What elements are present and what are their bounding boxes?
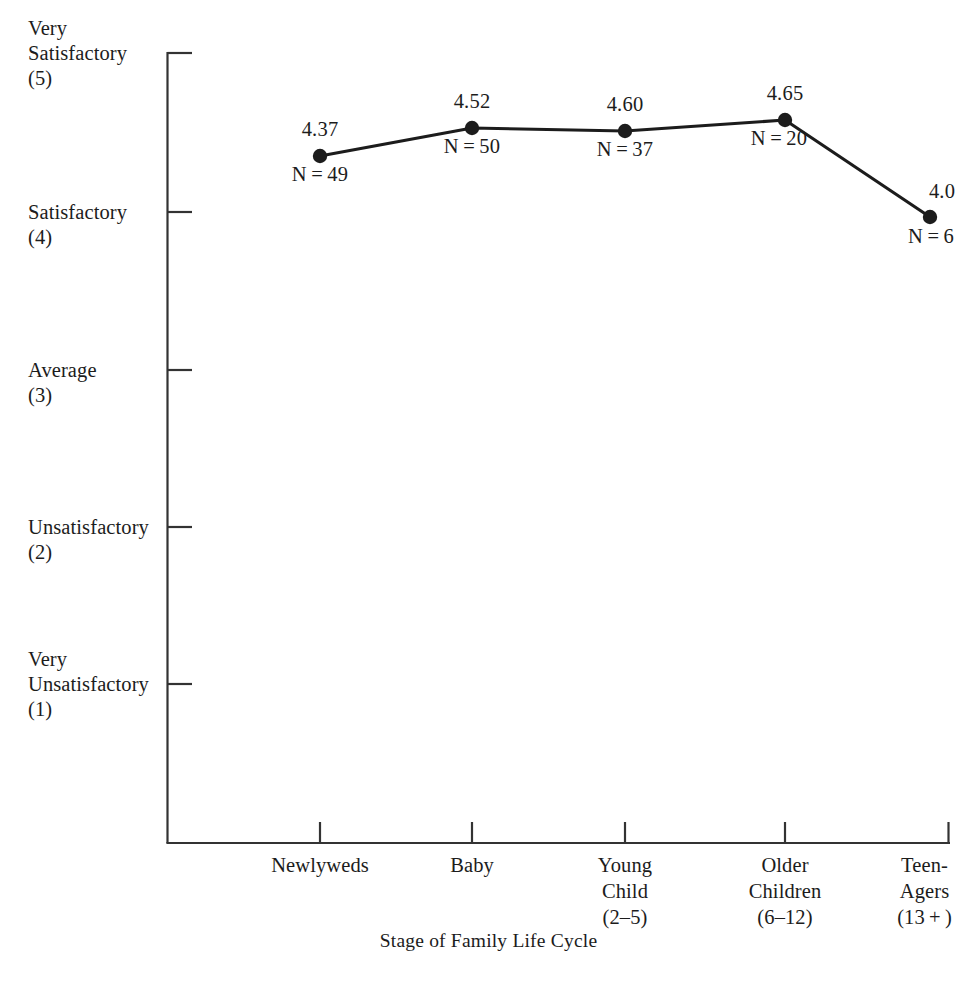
point-value-older-children: 4.65 [733, 82, 837, 104]
y-tick-label-1: Very Unsatisfactory (1) [28, 647, 178, 722]
data-point-older-children [778, 113, 792, 127]
x-tick-label-young-child: Young Child (2–5) [545, 852, 705, 930]
x-tick-label-newlyweds: Newlyweds [230, 852, 410, 878]
point-value-baby: 4.52 [420, 90, 524, 112]
point-n-baby: N = 50 [414, 135, 530, 157]
y-tick-marks [168, 53, 193, 684]
point-n-teen-agers: N = 6 [877, 225, 977, 247]
point-n-young-child: N = 37 [567, 138, 683, 160]
data-point-teen-agers [923, 210, 937, 224]
x-tick-label-older-children: Older Children (6–12) [705, 852, 865, 930]
point-n-older-children: N = 20 [721, 127, 837, 149]
point-value-young-child: 4.60 [573, 93, 677, 115]
data-point-young-child [618, 124, 632, 138]
x-tick-marks [320, 822, 949, 843]
y-tick-label-5: Very Satisfactory (5) [28, 16, 158, 91]
x-axis-title: Stage of Family Life Cycle [0, 930, 977, 952]
page-footer-fragment [0, 984, 977, 995]
y-tick-label-2: Unsatisfactory (2) [28, 515, 178, 565]
x-tick-label-teen-agers: Teen- Agers (13 + ) [872, 852, 977, 930]
line-chart: Very Satisfactory (5) Satisfactory (4) A… [0, 0, 977, 995]
y-tick-label-4: Satisfactory (4) [28, 200, 158, 250]
point-n-newlyweds: N = 49 [262, 163, 378, 185]
x-tick-label-baby: Baby [392, 852, 552, 878]
data-point-newlyweds [313, 149, 327, 163]
point-value-newlyweds: 4.37 [268, 118, 372, 140]
y-tick-label-3: Average (3) [28, 358, 158, 408]
data-point-baby [465, 121, 479, 135]
point-value-teen-agers: 4.0 [899, 180, 977, 202]
series-markers [313, 113, 937, 224]
